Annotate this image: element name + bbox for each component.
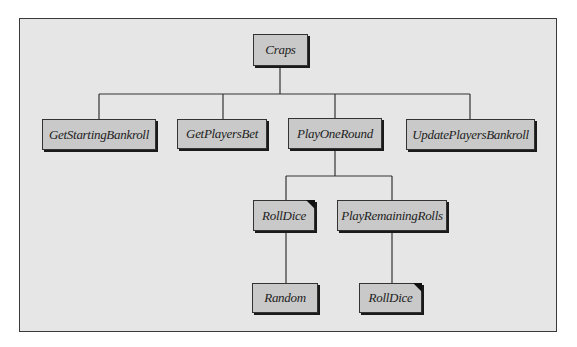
library-module-marker-icon xyxy=(306,200,315,209)
node-label: Random xyxy=(264,290,306,306)
node-label: RollDice xyxy=(369,290,413,306)
node-label: RollDice xyxy=(262,208,306,224)
node-random: Random xyxy=(252,283,318,313)
node-play-remaining-rolls: PlayRemainingRolls xyxy=(337,200,447,231)
node-roll-dice-2: RollDice xyxy=(359,283,422,313)
node-roll-dice: RollDice xyxy=(253,200,315,231)
library-module-marker-icon xyxy=(413,283,422,292)
node-label: Craps xyxy=(265,42,295,58)
node-get-starting-bankroll: GetStartingBankroll xyxy=(42,119,156,150)
node-label: UpdatePlayersBankroll xyxy=(412,127,529,143)
node-label: PlayRemainingRolls xyxy=(341,208,442,224)
node-get-players-bet: GetPlayersBet xyxy=(177,119,267,149)
node-play-one-round: PlayOneRound xyxy=(288,118,382,149)
node-label: GetStartingBankroll xyxy=(49,127,149,143)
node-update-players-bankroll: UpdatePlayersBankroll xyxy=(406,119,535,150)
node-label: GetPlayersBet xyxy=(186,126,258,142)
node-label: PlayOneRound xyxy=(297,126,373,142)
node-craps: Craps xyxy=(253,34,308,66)
